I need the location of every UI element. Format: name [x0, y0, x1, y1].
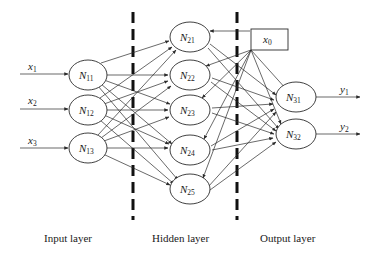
edges-input-hidden	[98, 41, 178, 185]
layer-label-output: Output layer	[260, 232, 316, 244]
output-label-y1: y1	[339, 83, 349, 97]
input-label-x2: x2	[27, 94, 37, 108]
node-n21: N21	[170, 22, 210, 52]
node-n25: N25	[170, 174, 210, 204]
neural-network-diagram: x1 x2 x3 N11 N12 N13 N21 N22 N23 N24 N25…	[0, 0, 377, 258]
node-n32: N32	[276, 119, 316, 149]
node-n11: N11	[69, 60, 107, 90]
edges-hidden-output	[208, 44, 279, 190]
node-n13: N13	[69, 133, 107, 163]
output-label-y2: y2	[339, 120, 349, 134]
input-label-x3: x3	[27, 134, 37, 148]
node-n12: N12	[69, 95, 107, 125]
layer-label-hidden: Hidden layer	[152, 232, 209, 244]
input-label-x1: x1	[27, 60, 37, 74]
node-n24: N24	[170, 135, 210, 165]
layer-label-input: Input layer	[44, 232, 92, 244]
output-arrows	[316, 97, 360, 134]
bias-node-x0: x0	[251, 29, 288, 50]
node-n22: N22	[170, 60, 210, 90]
node-n31: N31	[276, 82, 316, 112]
node-n23: N23	[170, 95, 210, 125]
edges-bias	[202, 31, 287, 178]
